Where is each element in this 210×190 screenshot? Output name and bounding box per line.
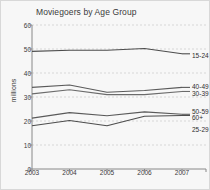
series-label-15-24: 15-24: [192, 52, 209, 59]
series-line-15-24: [32, 49, 182, 54]
series-line-60+: [32, 115, 182, 125]
series-label-30-39: 30-39: [192, 90, 209, 97]
series-label-60+: 60+: [192, 113, 203, 120]
series-label-40-49: 40-49: [192, 82, 209, 89]
chart-container: Moviegoers by Age Group millions 0102030…: [0, 0, 210, 190]
series-label-25-29: 25-29: [192, 126, 209, 133]
plot-area: [1, 1, 210, 190]
series-line-50-59: [32, 112, 182, 118]
